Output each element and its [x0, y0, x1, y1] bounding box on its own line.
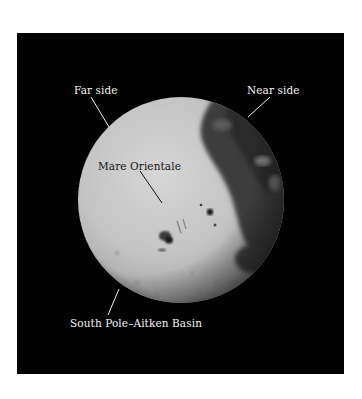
moon-figure: Far side Near side Mare Orientale South … — [17, 33, 344, 374]
far-side-label: Far side — [74, 84, 118, 96]
south-pole-aitken-pointer — [108, 289, 119, 315]
mare-orientale-label: Mare Orientale — [98, 160, 181, 172]
near-side-label: Near side — [247, 84, 300, 96]
far-side-pointer — [91, 97, 109, 127]
near-side-pointer — [248, 97, 270, 117]
south-pole-aitken-label: South Pole–Aitken Basin — [70, 317, 202, 329]
